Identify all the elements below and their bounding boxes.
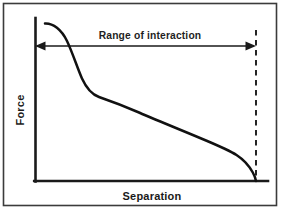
y-axis-label: Force [14, 95, 26, 126]
figure-container: Force Separation Range of interaction [0, 0, 283, 219]
range-of-interaction-label: Range of interaction [99, 30, 202, 41]
x-axis-label: Separation [123, 190, 182, 202]
force-separation-chart: Force Separation Range of interaction [0, 0, 283, 219]
